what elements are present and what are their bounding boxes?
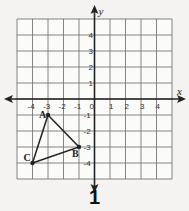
y-tick-label: -1 [84,111,92,120]
x-tick-label: 3 [140,102,145,111]
vertex-label-a: A [39,109,47,120]
vertex-label-b: B [72,148,79,159]
vertex-point-c [30,161,34,165]
y-tick-label: 3 [89,47,94,56]
x-tick-label: 2 [125,102,130,111]
y-tick-label: 2 [89,63,94,72]
x-axis-label: x [176,85,182,97]
y-tick-label: -4 [84,159,92,168]
x-tick-label: 0 [90,102,95,111]
x-tick-label: 4 [156,102,161,111]
y-axis-label: y [98,5,104,17]
x-tick-label: -4 [28,102,36,111]
y-tick-label: 4 [89,31,94,40]
y-tick-label: 1 [89,79,94,88]
x-tick-label: 1 [109,102,114,111]
x-tick-label: -1 [74,102,82,111]
x-tick-label: -2 [59,102,67,111]
y-tick-label: -3 [84,143,92,152]
y-tick-label: -2 [84,127,92,136]
coordinate-grid: xy-4-3-2-1012344321-1-2-3-4ABC [0,0,189,211]
figure-number: 1 [0,186,189,209]
vertex-label-c: C [24,152,31,163]
vertex-point-a [46,113,50,117]
